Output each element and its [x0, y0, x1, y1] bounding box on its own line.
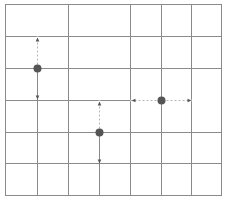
grid-diagram	[0, 0, 228, 204]
point-marker	[158, 97, 166, 105]
point-marker	[96, 129, 104, 137]
point-marker	[34, 65, 42, 73]
background	[0, 0, 228, 204]
